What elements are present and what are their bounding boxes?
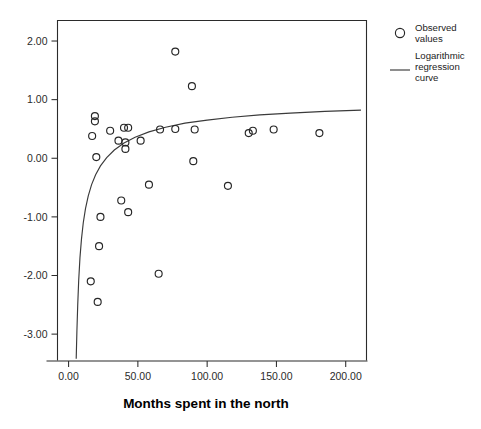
data-point — [118, 197, 125, 204]
data-point — [137, 137, 144, 144]
data-point — [97, 213, 104, 220]
data-point — [316, 130, 323, 137]
data-point — [188, 83, 195, 90]
data-point — [270, 126, 277, 133]
x-tick-label: 50.00 — [125, 370, 151, 382]
data-point — [190, 158, 197, 165]
y-tick-label: 2.00 — [27, 35, 48, 47]
data-point — [224, 182, 231, 189]
y-tick-label: 1.00 — [27, 93, 48, 105]
data-points-group — [87, 48, 323, 305]
legend-observed-values-label: values — [415, 33, 443, 44]
plot-frame-box — [58, 21, 367, 361]
data-point — [172, 48, 179, 55]
data-point — [191, 126, 198, 133]
legend-regression-curve-label: curve — [415, 72, 438, 83]
data-point — [125, 209, 132, 216]
legend-regression-curve-label: Logarithmic — [415, 50, 465, 61]
data-point — [94, 298, 101, 305]
data-point — [145, 181, 152, 188]
y-axis: 2.001.000.00-1.00-2.00-3.00 — [24, 35, 58, 340]
y-tick-label: -3.00 — [24, 328, 48, 340]
data-point — [91, 118, 98, 125]
data-point — [96, 243, 103, 250]
plot-frame — [47, 21, 368, 362]
data-point — [155, 270, 162, 277]
data-point — [245, 130, 252, 137]
legend-observed-values-icon — [395, 28, 404, 37]
x-axis-title: Months spent in the north — [123, 396, 289, 411]
legend-observed-values-label: Observed — [415, 22, 457, 33]
data-point — [107, 127, 114, 134]
x-tick-label: 100.00 — [191, 370, 223, 382]
data-point — [249, 127, 256, 134]
legend: ObservedvaluesLogarithmicregressioncurve — [390, 22, 465, 83]
scatter-plot: 2.001.000.00-1.00-2.00-3.000.0050.00100.… — [0, 0, 481, 429]
data-point — [125, 124, 132, 131]
data-point — [93, 154, 100, 161]
data-point — [172, 125, 179, 132]
regression-curve — [76, 110, 361, 359]
chart-container: 2.001.000.00-1.00-2.00-3.000.0050.00100.… — [0, 0, 481, 429]
y-tick-label: -2.00 — [24, 269, 48, 281]
data-point — [87, 278, 94, 285]
y-tick-label: 0.00 — [27, 152, 48, 164]
x-tick-label: 200.00 — [330, 370, 362, 382]
y-tick-label: -1.00 — [24, 211, 48, 223]
data-point — [115, 137, 122, 144]
x-axis: 0.0050.00100.00150.00200.00 — [58, 361, 362, 382]
x-tick-label: 150.00 — [260, 370, 292, 382]
x-tick-label: 0.00 — [58, 370, 79, 382]
data-point — [89, 132, 96, 139]
legend-regression-curve-label: regression — [415, 61, 460, 72]
